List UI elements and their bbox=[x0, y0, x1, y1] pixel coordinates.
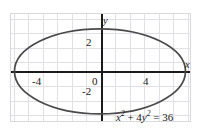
y-tick-label-2: 2 bbox=[86, 37, 92, 48]
x-axis-label: x bbox=[185, 60, 190, 71]
equation-term2-exponent: 2 bbox=[147, 109, 151, 118]
ellipse-path bbox=[14, 29, 185, 114]
equation-annotation: x2 + 4y2 = 36 bbox=[116, 110, 173, 123]
y-axis-label: y bbox=[103, 16, 108, 27]
y-tick-label-minus2: -2 bbox=[82, 86, 91, 97]
x-tick-label-minus4: -4 bbox=[32, 76, 41, 87]
plot-area bbox=[10, 13, 191, 122]
equation-term1-exponent: 2 bbox=[121, 109, 125, 118]
ellipse-graph-figure: -4 0 4 2 -2 y x x2 + 4y2 = 36 bbox=[0, 0, 201, 129]
equation-right-hand-side: 36 bbox=[162, 111, 173, 123]
equation-equals: = bbox=[153, 111, 159, 123]
x-tick-label-4: 4 bbox=[143, 76, 149, 87]
equation-plus: + bbox=[127, 111, 133, 123]
x-tick-label-0: 0 bbox=[92, 76, 98, 87]
ellipse-curve bbox=[11, 14, 190, 122]
